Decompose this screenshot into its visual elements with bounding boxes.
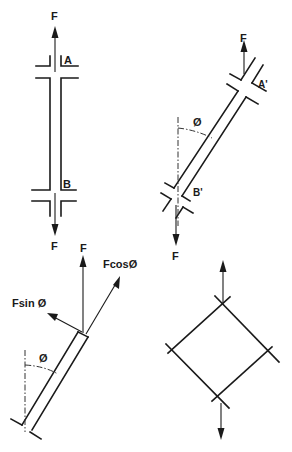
axial-component-label: FcosØ bbox=[103, 258, 138, 270]
bar-right-wall bbox=[182, 97, 246, 196]
section-b-prime-label: B' bbox=[193, 187, 203, 198]
section-b-label: B bbox=[63, 178, 71, 190]
bar-bottom-right-flange bbox=[30, 432, 41, 439]
force-top-label: F bbox=[240, 32, 247, 44]
stress-element-panel bbox=[166, 260, 279, 440]
arrowhead-icon bbox=[218, 428, 225, 440]
angle-label: Ø bbox=[39, 352, 48, 364]
diamond-edge-lower-left bbox=[166, 344, 229, 408]
bar-right-wall bbox=[32, 337, 88, 430]
arrowhead-icon bbox=[52, 26, 59, 38]
bar-bottom-left-flange bbox=[165, 183, 174, 188]
section-a-label: A bbox=[64, 54, 72, 66]
diamond-edge-upper-left bbox=[168, 297, 230, 353]
angle-label: Ø bbox=[193, 116, 202, 128]
cut-b-left bbox=[32, 201, 50, 216]
bar-bottom-right-flange bbox=[182, 196, 190, 201]
arrowhead-icon bbox=[173, 234, 180, 246]
angle-arc bbox=[178, 128, 212, 138]
cut-b-right-stub bbox=[183, 207, 193, 213]
axial-component-vector bbox=[86, 280, 118, 334]
force-top-label: F bbox=[51, 10, 58, 22]
force-components-panel: F FcosØ Fsin Ø Ø bbox=[11, 242, 138, 439]
cut-b-left-lower bbox=[163, 199, 171, 211]
vertical-bar-panel: F A B F bbox=[32, 10, 78, 252]
arrowhead-icon bbox=[220, 260, 227, 272]
diamond-edge-lower-right bbox=[212, 347, 272, 401]
bar-left-wall bbox=[22, 332, 78, 425]
bar-left-wall bbox=[174, 91, 238, 188]
bar-right-wall bbox=[61, 78, 78, 190]
diamond-edge-upper-right bbox=[215, 296, 279, 362]
bar-top-left-flange bbox=[227, 84, 238, 91]
force-bottom-label: F bbox=[172, 250, 179, 262]
cut-b-right-lower bbox=[176, 207, 183, 218]
arrowhead-icon bbox=[52, 224, 59, 236]
cut-a-upper bbox=[241, 58, 255, 80]
cut-a-left bbox=[36, 56, 50, 66]
arrowhead-icon bbox=[80, 255, 87, 267]
shear-component-label: Fsin Ø bbox=[12, 297, 47, 309]
shear-component-vector bbox=[52, 316, 82, 332]
inclined-bar-panel: F A' B' Ø F bbox=[161, 32, 268, 262]
bar-bottom-left-flange bbox=[11, 419, 22, 425]
force-bottom-label: F bbox=[51, 240, 58, 252]
cut-b-left-stub bbox=[161, 193, 171, 199]
bar-left-wall bbox=[32, 78, 50, 190]
section-a-prime-label: A' bbox=[258, 79, 268, 90]
arrowhead-icon bbox=[47, 313, 58, 321]
diagram-canvas: F A B F F A' B' bbox=[0, 0, 292, 452]
cut-b-right bbox=[61, 201, 76, 216]
cut-a-stub bbox=[230, 74, 241, 80]
bar-top-right-flange bbox=[246, 97, 258, 104]
force-label: F bbox=[80, 242, 87, 254]
